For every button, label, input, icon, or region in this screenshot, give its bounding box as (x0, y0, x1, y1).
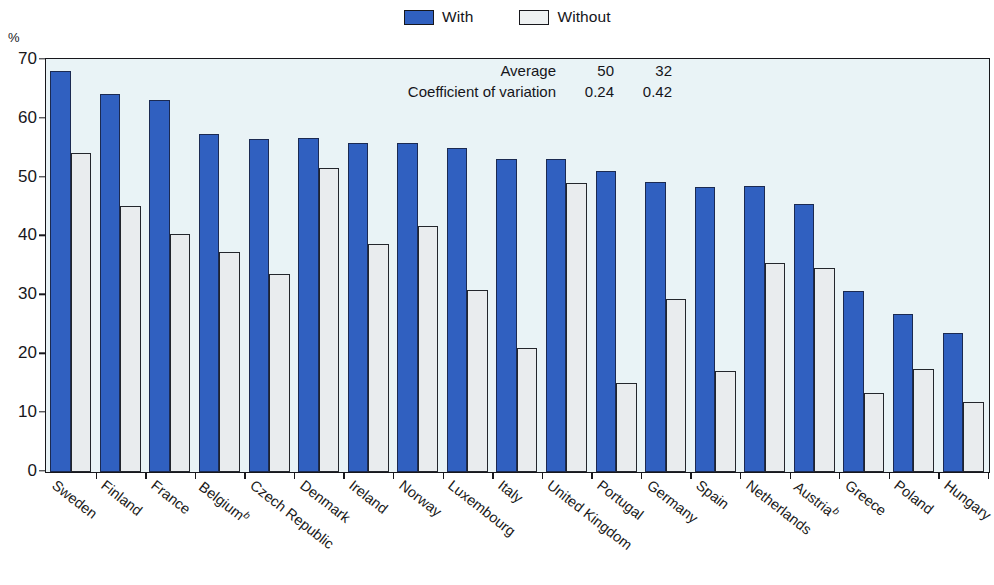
bar-without (616, 383, 637, 472)
x-axis-label: Ireland (346, 477, 391, 517)
bar-with (249, 139, 270, 472)
annotation-row: Average5032 (344, 62, 672, 83)
x-axis-label-text: Poland (892, 477, 937, 517)
bar-group (938, 59, 988, 472)
y-axis-tick-label: 0 (28, 461, 37, 481)
y-axis-tick-mark (39, 411, 46, 412)
y-axis-tick-mark (39, 176, 46, 177)
x-axis-label-text: Greece (842, 477, 889, 519)
bar-without (269, 274, 290, 472)
bar-without (566, 183, 587, 472)
bar-with (596, 171, 617, 472)
annotation-value-with: 50 (556, 62, 614, 79)
bar-group (790, 59, 840, 472)
x-axis-label-text: Ireland (346, 477, 391, 517)
bar-group (889, 59, 939, 472)
x-axis-label-text: Sweden (49, 477, 100, 522)
y-axis-tick-mark (39, 352, 46, 353)
statistics-annotation: Average5032Coefficient of variation0.240… (344, 62, 672, 104)
legend-swatch-without (519, 10, 549, 25)
legend-item-without: Without (519, 8, 610, 26)
x-axis-label-text: Hungary (941, 477, 994, 523)
plot-inner: 010203040506070 (46, 59, 989, 472)
bar-without (467, 290, 488, 472)
x-axis-label: France (148, 477, 193, 517)
chart-container: With Without % 010203040506070 Average50… (0, 0, 994, 585)
bar-with (199, 134, 220, 472)
bar-with (298, 138, 319, 472)
bar-with (794, 204, 815, 472)
bar-group (393, 59, 443, 472)
x-axis-label: Italy (495, 477, 526, 506)
x-axis-labels: SwedenFinlandFranceBelgiumbCzech Republi… (45, 473, 990, 585)
x-axis-label-text: Italy (495, 477, 526, 506)
annotation-row: Coefficient of variation0.240.42 (344, 83, 672, 104)
x-axis-label-text: Belgium (197, 478, 248, 523)
x-axis-label-text: Finland (98, 477, 145, 519)
x-axis-label: Germany (644, 477, 701, 526)
y-axis-tick-mark (39, 235, 46, 236)
y-axis-unit-label: % (8, 30, 20, 45)
y-axis-tick-label: 60 (18, 108, 37, 128)
annotation-label: Coefficient of variation (344, 83, 556, 100)
y-axis-tick-label: 70 (18, 49, 37, 69)
x-axis-label: Hungary (941, 477, 994, 523)
bar-with (893, 314, 914, 472)
bar-without (913, 369, 934, 472)
bar-with (744, 186, 765, 472)
annotation-value-with: 0.24 (556, 83, 614, 100)
legend-swatch-with (404, 10, 434, 25)
bar-group (492, 59, 542, 472)
x-axis-label: Spain (693, 477, 732, 512)
bar-group (294, 59, 344, 472)
x-axis-label: Belgiumb (197, 477, 254, 527)
plot-area: 010203040506070 (45, 58, 990, 473)
bar-without (71, 153, 92, 472)
x-axis-label-text: Norway (396, 477, 445, 520)
annotation-label: Average (344, 62, 556, 79)
y-axis-tick-label: 40 (18, 225, 37, 245)
bar-without (418, 226, 439, 472)
bar-with (843, 291, 864, 472)
bar-without (120, 206, 141, 472)
bar-with (447, 148, 468, 472)
bar-with (149, 100, 170, 472)
y-axis-tick-mark (39, 294, 46, 295)
bar-with (645, 182, 666, 472)
bar-without (864, 393, 885, 472)
y-axis-tick-label: 20 (18, 343, 37, 363)
y-axis-tick-label: 50 (18, 167, 37, 187)
bar-with (496, 159, 517, 472)
x-axis-label: Norway (396, 477, 445, 520)
annotation-value-without: 0.42 (614, 83, 672, 100)
bar-group (46, 59, 96, 472)
bar-with (348, 143, 369, 472)
x-axis-label-text: Czech Republic (247, 477, 337, 552)
x-axis-label-text: Spain (693, 477, 732, 512)
bar-group (195, 59, 245, 472)
x-axis-label-text: United Kingdom (545, 477, 636, 553)
bar-with (546, 159, 567, 472)
bar-without (517, 348, 538, 472)
annotation-value-without: 32 (614, 62, 672, 79)
x-axis-label: Czech Republic (247, 477, 337, 552)
bar-without (765, 263, 786, 472)
x-axis-label: Sweden (49, 477, 100, 522)
bar-with (100, 94, 121, 472)
x-axis-label: Poland (892, 477, 937, 517)
bar-without (666, 299, 687, 472)
bar-group (690, 59, 740, 472)
bar-group (343, 59, 393, 472)
y-axis-tick-mark (39, 58, 46, 59)
bar-with (695, 187, 716, 472)
x-axis-label: Finland (98, 477, 145, 519)
y-axis-tick-label: 30 (18, 284, 37, 304)
bar-group (443, 59, 493, 472)
bar-with (50, 71, 71, 472)
x-axis-label-text: France (148, 477, 193, 517)
y-axis-tick-mark (39, 117, 46, 118)
bar-without (368, 244, 389, 472)
y-axis-tick-mark (39, 470, 46, 471)
x-axis-label-text: Germany (644, 477, 701, 526)
bar-group (740, 59, 790, 472)
